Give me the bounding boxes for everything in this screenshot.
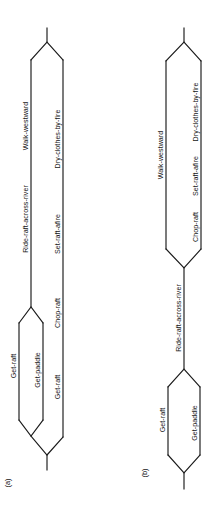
panel-a-label-get-raft-lower: Get-raft <box>54 375 62 399</box>
panel-b-label-get-raft: Get-raft <box>159 408 167 432</box>
panel-a-labels: Walk-westward Ride-raft-across-river Get… <box>10 102 62 399</box>
panel-a-label-get-raft-upper: Get-raft <box>10 354 18 378</box>
panel-b-lower-split <box>168 369 200 387</box>
panel-a-label-ride-raft-across-river: Ride-raft-across-river <box>22 185 30 253</box>
panel-a-label-set-raft-afire: Set-raft-afire <box>54 214 62 254</box>
panel-a-caption: (a) <box>3 478 12 487</box>
panel-b-label-chop-raft: Chop-raft <box>192 212 200 242</box>
panel-b-caption: (b) <box>140 468 149 477</box>
panel-a-label-dry-clothes-by-fire: Dry-clothes-by-fire <box>54 110 62 169</box>
panel-b-label-get-paddle: Get-paddle <box>191 405 199 441</box>
panel-a-upper-inner-base <box>19 420 43 436</box>
panel-b-label-set-raft-afire: Set-raft-afire <box>192 156 200 196</box>
panel-a-diagram: Walk-westward Ride-raft-across-river Get… <box>0 0 221 511</box>
panel-b-label-walk-westward: Walk-westward <box>157 131 165 179</box>
panel-b-finish-join <box>166 42 201 61</box>
figure-canvas: Walk-westward Ride-raft-across-river Get… <box>0 0 221 511</box>
panel-a-finish-join <box>31 42 63 60</box>
panel-a-label-get-paddle: Get-paddle <box>34 352 42 388</box>
panel-a-start-join <box>31 436 63 455</box>
panel-b-start-join <box>168 455 200 473</box>
panel-a-upper-inner-join <box>19 307 43 323</box>
panel-b-label-ride-raft-across-river: Ride-raft-across-river <box>175 284 183 352</box>
panel-b-mid-upper-join <box>166 249 201 268</box>
panel-a-label-chop-raft: Chop-raft <box>54 298 62 328</box>
panel-a-label-walk-westward: Walk-westward <box>22 102 30 150</box>
panel-b-label-dry-clothes-by-fire: Dry-clothes-by-fire <box>192 83 200 142</box>
